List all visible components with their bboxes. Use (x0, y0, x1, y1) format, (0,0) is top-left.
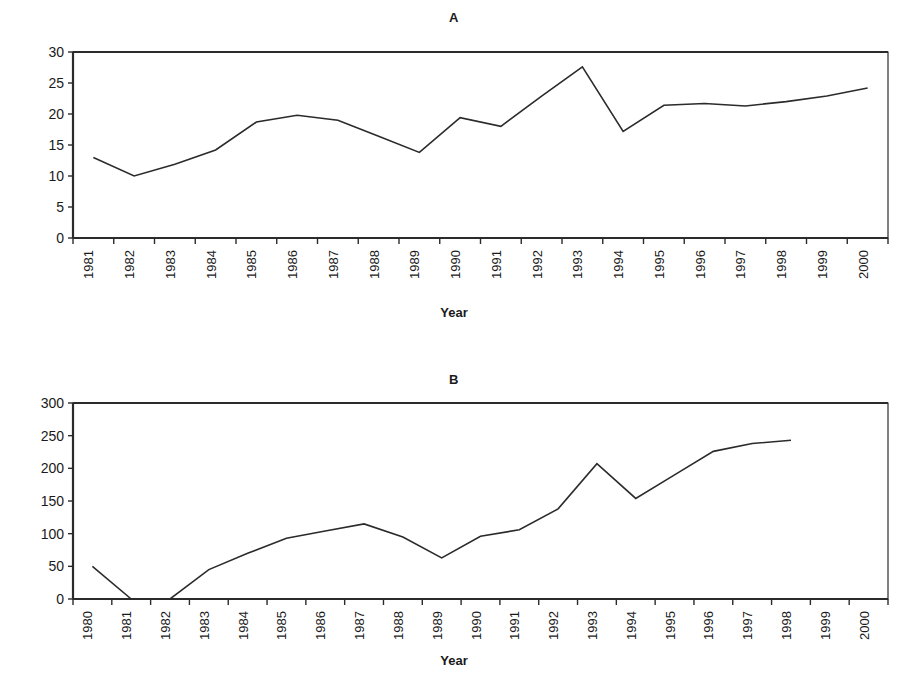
xtick-label: 1981 (81, 250, 96, 279)
chart-panel-a: A 05101520253019811982198319841985198619… (0, 0, 908, 348)
xtick-label: 1996 (701, 611, 716, 640)
xtick-label: 1989 (430, 611, 445, 640)
ytick-label: 250 (41, 428, 65, 444)
series-line (93, 67, 867, 176)
chart-a-plot: 0510152025301981198219831984198519861987… (0, 0, 908, 348)
xtick-label: 1988 (391, 611, 406, 640)
ytick-label: 10 (48, 168, 64, 184)
xtick-label: 1984 (204, 250, 219, 279)
xtick-label: 1999 (815, 250, 830, 279)
xtick-label: 1994 (624, 611, 639, 640)
ytick-label: 15 (48, 137, 64, 153)
xtick-label: 2000 (857, 611, 872, 640)
xtick-label: 1999 (818, 611, 833, 640)
ytick-label: 0 (56, 591, 64, 607)
chart-a-xaxis-title: Year (0, 305, 908, 320)
xtick-label: 1985 (244, 250, 259, 279)
ytick-label: 5 (56, 199, 64, 215)
xtick-label: 1981 (119, 611, 134, 640)
xtick-label: 1992 (530, 250, 545, 279)
ytick-label: 200 (41, 460, 65, 476)
xtick-label: 1982 (122, 250, 137, 279)
xtick-label: 1990 (448, 250, 463, 279)
xtick-label: 1995 (652, 250, 667, 279)
xtick-label: 1983 (163, 250, 178, 279)
ytick-label: 300 (41, 395, 65, 411)
ytick-label: 0 (56, 230, 64, 246)
chart-panel-b: B 05010015020025030019801981198219831984… (0, 348, 908, 694)
xtick-label: 1997 (740, 611, 755, 640)
xtick-label: 1986 (313, 611, 328, 640)
xtick-label: 1982 (158, 611, 173, 640)
xtick-label: 1984 (236, 611, 251, 640)
xtick-label: 1994 (611, 250, 626, 279)
xtick-label: 1993 (585, 611, 600, 640)
chart-b-xaxis-title: Year (0, 653, 908, 668)
ytick-label: 25 (48, 75, 64, 91)
xtick-label: 1980 (80, 611, 95, 640)
xtick-label: 1987 (326, 250, 341, 279)
xtick-label: 1992 (546, 611, 561, 640)
ytick-label: 20 (48, 106, 64, 122)
xtick-label: 1996 (693, 250, 708, 279)
xtick-label: 1997 (733, 250, 748, 279)
xtick-label: 1991 (507, 611, 522, 640)
xtick-label: 1988 (367, 250, 382, 279)
chart-b-plot: 0501001502002503001980198119821983198419… (0, 348, 908, 694)
ytick-label: 100 (41, 526, 65, 542)
xtick-label: 1985 (274, 611, 289, 640)
xtick-label: 1998 (779, 611, 794, 640)
xtick-label: 1989 (407, 250, 422, 279)
ytick-label: 30 (48, 44, 64, 60)
xtick-label: 1998 (774, 250, 789, 279)
ytick-label: 150 (41, 493, 65, 509)
xtick-label: 1986 (285, 250, 300, 279)
xtick-label: 1991 (489, 250, 504, 279)
xtick-label: 1983 (197, 611, 212, 640)
ytick-label: 50 (48, 558, 64, 574)
xtick-label: 1993 (570, 250, 585, 279)
series-line (92, 440, 791, 599)
xtick-label: 1995 (663, 611, 678, 640)
xtick-label: 1987 (352, 611, 367, 640)
xtick-label: 1990 (469, 611, 484, 640)
xtick-label: 2000 (856, 250, 871, 279)
